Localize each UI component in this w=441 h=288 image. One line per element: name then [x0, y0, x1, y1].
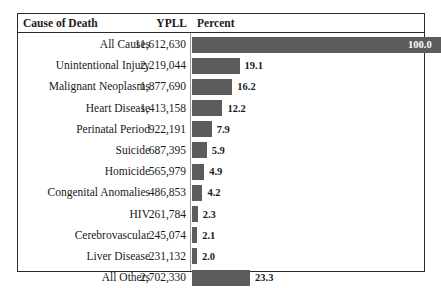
percent-value-label: 19.1	[245, 58, 263, 73]
percent-bar	[192, 37, 441, 53]
percent-bar	[192, 164, 204, 180]
cell-ypll: 2,219,044	[112, 57, 186, 74]
percent-bar-cell: 7.9	[192, 119, 425, 140]
percent-bar	[192, 248, 197, 264]
cell-ypll: 245,074	[112, 227, 186, 244]
percent-bar-cell: 5.9	[192, 140, 425, 161]
percent-value-label: 4.2	[207, 185, 220, 200]
table-rows: All Causes11,612,630100.0Unintentional I…	[17, 34, 425, 288]
column-header-ypll: YPLL	[113, 14, 187, 32]
percent-bar	[192, 79, 232, 95]
cell-ypll: 1,877,690	[112, 78, 186, 95]
percent-bar	[192, 142, 207, 158]
percent-bar-cell: 100.0	[192, 34, 425, 55]
column-header-percent: Percent	[197, 14, 234, 32]
percent-value-label: 2.3	[203, 207, 216, 222]
percent-bar-cell: 2.0	[192, 246, 425, 267]
percent-bar	[192, 227, 197, 243]
percent-bar-cell: 12.2	[192, 98, 425, 119]
cell-ypll: 486,853	[112, 184, 186, 201]
percent-bar	[192, 270, 250, 286]
table-row: All Others2,702,33023.3	[17, 267, 425, 288]
cell-ypll: 261,784	[112, 206, 186, 223]
cell-ypll: 565,979	[112, 163, 186, 180]
cell-ypll: 2,702,330	[112, 269, 186, 286]
percent-value-label: 7.9	[217, 122, 230, 137]
percent-bar-cell: 4.9	[192, 161, 425, 182]
percent-bar-cell: 23.3	[192, 267, 425, 288]
cell-ypll: 231,132	[112, 248, 186, 265]
percent-bar	[192, 185, 202, 201]
table-row: Suicide687,3955.9	[17, 140, 425, 161]
table-row: Cerebrovascular245,0742.1	[17, 225, 425, 246]
cell-ypll: 1,413,158	[112, 100, 186, 117]
percent-value-label: 12.2	[227, 101, 245, 116]
cell-ypll: 11,612,630	[112, 36, 186, 53]
table-row: All Causes11,612,630100.0	[17, 34, 425, 55]
percent-bar	[192, 58, 240, 74]
ypll-cause-of-death-table-chart: Cause of Death YPLL Percent All Causes11…	[17, 13, 425, 272]
cell-ypll: 922,191	[112, 121, 186, 138]
table-row: Congenital Anomalies486,8534.2	[17, 182, 425, 203]
column-header-cause-of-death: Cause of Death	[23, 14, 98, 32]
percent-bar	[192, 100, 222, 116]
percent-value-label: 100.0	[408, 37, 432, 52]
percent-value-label: 23.3	[255, 270, 273, 285]
percent-value-label: 16.2	[237, 79, 255, 94]
percent-bar	[192, 121, 212, 137]
table-row: Homicide565,9794.9	[17, 161, 425, 182]
table-row: Liver Disease231,1322.0	[17, 246, 425, 267]
percent-bar-cell: 2.1	[192, 225, 425, 246]
table-row: Heart Disease1,413,15812.2	[17, 98, 425, 119]
percent-value-label: 2.0	[202, 249, 215, 264]
table-row: Malignant Neoplasms1,877,69016.2	[17, 76, 425, 97]
cell-ypll: 687,395	[112, 142, 186, 159]
table-row: Perinatal Period922,1917.9	[17, 119, 425, 140]
percent-bar-cell: 16.2	[192, 76, 425, 97]
percent-bar-cell: 19.1	[192, 55, 425, 76]
percent-value-label: 2.1	[202, 228, 215, 243]
table-header-row: Cause of Death YPLL Percent	[17, 13, 425, 33]
percent-bar-cell: 4.2	[192, 182, 425, 203]
percent-bar-cell: 2.3	[192, 204, 425, 225]
percent-value-label: 4.9	[209, 164, 222, 179]
percent-value-label: 5.9	[212, 143, 225, 158]
table-row: Unintentional Injury2,219,04419.1	[17, 55, 425, 76]
percent-bar	[192, 206, 198, 222]
table-row: HIV261,7842.3	[17, 204, 425, 225]
